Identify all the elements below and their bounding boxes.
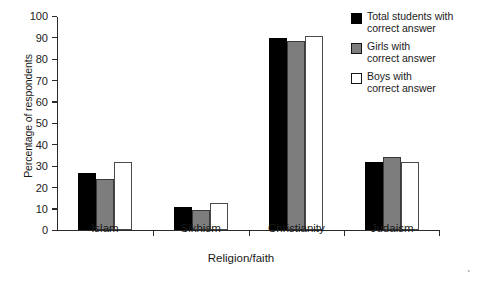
y-tick-80: 80 (52, 59, 57, 60)
legend: Total students with correct answer Girls… (351, 11, 482, 101)
y-tick-70: 70 (52, 80, 57, 81)
y-tick-90: 90 (52, 37, 57, 38)
y-tick-label: 0 (42, 225, 48, 236)
y-tick-0: 0 (52, 230, 57, 231)
bar (383, 157, 401, 230)
bar (365, 162, 383, 229)
legend-swatch-girls (351, 43, 362, 54)
y-tick-20: 20 (52, 187, 57, 188)
bar-group-islam (78, 17, 132, 230)
legend-label-line2: correct answer (367, 82, 436, 94)
category-label-islam: Islam (91, 222, 118, 234)
y-tick-50: 50 (52, 123, 57, 124)
corner-artifact: • (468, 267, 470, 274)
legend-item-boys: Boys with correct answer (351, 71, 482, 94)
x-tick-boundary (439, 231, 440, 236)
bar-chart-figure: Percentage of respondents 01020304050607… (0, 0, 482, 288)
legend-swatch-boys (351, 73, 362, 84)
y-tick-10: 10 (52, 208, 57, 209)
bar (269, 38, 287, 230)
legend-label-girls: Girls with correct answer (367, 41, 436, 64)
legend-item-total-students: Total students with correct answer (351, 11, 482, 34)
legend-label-line2: correct answer (367, 22, 436, 34)
x-tick-boundary (344, 231, 345, 236)
y-tick-40: 40 (52, 144, 57, 145)
category-label-christianity: Christianity (268, 222, 325, 234)
y-tick-label: 40 (36, 139, 48, 150)
legend-label-line2: correct answer (367, 52, 436, 64)
legend-swatch-total-students (351, 13, 362, 24)
y-tick-label: 60 (36, 97, 48, 108)
bar (305, 36, 323, 230)
y-tick-label: 30 (36, 161, 48, 172)
legend-label-line1: Total students with (367, 10, 453, 22)
y-tick-30: 30 (52, 166, 57, 167)
y-tick-label: 90 (36, 32, 48, 43)
y-tick-label: 70 (36, 75, 48, 86)
y-tick-label: 50 (36, 118, 48, 129)
y-axis-title: Percentage of respondents (22, 26, 34, 206)
legend-label-boys: Boys with correct answer (367, 71, 436, 94)
y-tick-label: 100 (30, 11, 48, 22)
legend-item-girls: Girls with correct answer (351, 41, 482, 64)
bar (114, 162, 132, 229)
legend-label-line1: Boys with (367, 70, 412, 82)
y-tick-label: 20 (36, 182, 48, 193)
y-tick-label: 80 (36, 54, 48, 65)
legend-label-line1: Girls with (367, 40, 410, 52)
x-tick-boundary (153, 231, 154, 236)
y-axis-line (57, 17, 58, 231)
legend-label-total-students: Total students with correct answer (367, 11, 453, 34)
category-label-sikhism: Sikhism (180, 222, 220, 234)
bar (287, 41, 305, 229)
bar-group-christianity (269, 17, 323, 230)
y-tick-label: 10 (36, 204, 48, 215)
bar-group-sikhism (174, 17, 228, 230)
x-tick-boundary (249, 231, 250, 236)
bar (401, 162, 419, 229)
x-axis-title: Religion/faith (0, 252, 482, 264)
y-tick-60: 60 (52, 101, 57, 102)
category-label-judaism: Judaism (371, 222, 414, 234)
y-tick-100: 100 (52, 16, 57, 17)
